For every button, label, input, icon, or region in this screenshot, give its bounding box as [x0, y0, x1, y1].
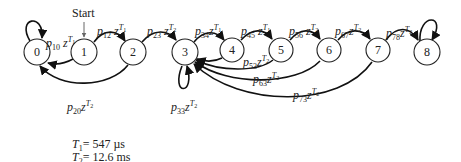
svg-text:2: 2	[130, 45, 136, 59]
edge-0-0	[26, 21, 42, 41]
svg-text:0: 0	[34, 45, 40, 59]
svg-text:1: 1	[81, 45, 87, 59]
svg-text:3: 3	[182, 45, 188, 59]
state-2: 2	[120, 39, 146, 65]
timing-t2: T2= 12.6 ms	[72, 150, 130, 162]
svg-text:5: 5	[278, 43, 284, 57]
svg-text:6: 6	[326, 43, 332, 57]
start-label: Start	[72, 6, 95, 21]
state-8: 8	[414, 39, 440, 65]
svg-text:4: 4	[229, 43, 235, 57]
label-p45: p45 zT1	[241, 22, 270, 42]
label-p56: p56 zT2	[289, 22, 318, 42]
svg-text:7: 7	[375, 43, 381, 57]
state-3: 3	[172, 39, 198, 65]
edge-3-3	[179, 66, 189, 89]
label-p73: p73zT2	[293, 86, 319, 106]
label-p33: p33zT2	[171, 98, 197, 118]
label-p34: p34zT1	[195, 22, 221, 42]
edge-4-3	[197, 58, 222, 61]
label-p23: p23 zT2	[147, 22, 176, 42]
label-p12: p12 zT1	[97, 22, 126, 42]
edge-1-0	[48, 59, 73, 64]
label-p20: p20zT2	[67, 98, 93, 118]
label-p63: p63zT2	[253, 70, 279, 90]
label-p10: p10 zT1	[46, 34, 75, 54]
svg-text:8: 8	[424, 45, 430, 59]
label-p78: p78zT2	[386, 24, 412, 44]
edge-2-0	[40, 65, 128, 83]
label-p67: p67zT2	[335, 22, 361, 42]
